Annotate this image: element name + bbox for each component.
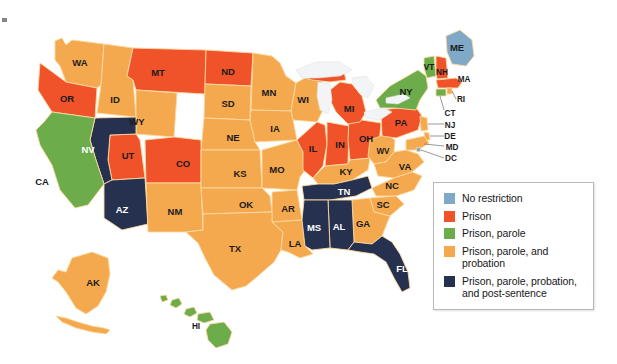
state-OK[interactable] — [201, 188, 272, 214]
legend-swatch-prison-parole-probation — [444, 246, 455, 257]
state-label-CT: CT — [445, 109, 456, 118]
state-UT[interactable] — [108, 134, 145, 180]
legend-item[interactable]: No restriction — [444, 192, 584, 205]
legend-label-no-restriction: No restriction — [462, 192, 522, 205]
state-ND[interactable] — [205, 50, 253, 86]
state-HI-niihau — [160, 295, 168, 302]
state-CT[interactable] — [436, 89, 446, 96]
state-HI-maui — [197, 312, 214, 323]
legend-swatch-no-restriction — [444, 193, 455, 204]
state-NH[interactable] — [436, 56, 448, 79]
state-RI[interactable] — [447, 88, 452, 94]
state-label-DE: DE — [444, 132, 456, 141]
leader-line-ct — [440, 96, 444, 110]
leader-line-md — [424, 144, 444, 146]
state-AK-aleutians — [56, 316, 110, 334]
state-shapes-group — [36, 30, 474, 348]
legend-swatch-prison-parole — [444, 228, 455, 239]
state-MA[interactable] — [436, 78, 462, 88]
state-FL[interactable] — [348, 236, 410, 292]
us-map-figure: WAORIDMTNDSDMNWIWYNVUTCONEIACAAZNMKSMOIL… — [0, 0, 617, 364]
state-label-DC: DC — [445, 154, 457, 163]
state-MT[interactable] — [127, 48, 206, 94]
state-KS[interactable] — [201, 150, 262, 188]
state-NY[interactable] — [376, 70, 428, 110]
state-label-RI: RI — [457, 95, 465, 104]
state-AK[interactable] — [52, 252, 110, 314]
state-HI-oahu — [184, 307, 197, 317]
state-ID[interactable] — [97, 44, 136, 117]
state-DC[interactable] — [416, 147, 421, 152]
legend-swatch-prison — [444, 211, 455, 222]
legend-label-prison-parole: Prison, parole — [462, 227, 525, 240]
state-HI-kauai — [170, 298, 182, 308]
state-IN[interactable] — [325, 122, 349, 166]
state-SD[interactable] — [204, 84, 251, 120]
state-VT[interactable] — [424, 56, 436, 78]
state-AR[interactable] — [272, 190, 302, 222]
legend-item[interactable]: Prison, parole, and probation — [444, 245, 584, 270]
state-MN[interactable] — [251, 53, 296, 111]
state-IA[interactable] — [250, 110, 297, 142]
state-NM[interactable] — [146, 183, 203, 232]
state-AL[interactable] — [328, 200, 354, 250]
legend-item[interactable]: Prison — [444, 210, 584, 223]
state-WY[interactable] — [136, 90, 177, 137]
state-label-NJ: NJ — [445, 121, 455, 130]
leader-line-ri — [452, 91, 456, 99]
map-legend: No restriction Prison Prison, parole Pri… — [433, 182, 594, 310]
state-label-CA: CA — [35, 176, 49, 187]
state-NJ[interactable] — [420, 116, 428, 131]
state-label-MD: MD — [446, 143, 459, 152]
state-AZ[interactable] — [104, 178, 148, 230]
legend-swatch-prison-parole-probation-post — [444, 276, 455, 287]
legend-label-prison: Prison — [462, 210, 491, 223]
callout-label-group: RICTNJDEMDDC — [444, 95, 465, 163]
state-ME[interactable] — [446, 30, 474, 66]
state-HI-hawaii[interactable] — [206, 322, 232, 348]
state-CO[interactable] — [145, 137, 201, 183]
leader-line-dc — [421, 150, 444, 158]
state-label-HI: HI — [192, 322, 200, 331]
legend-label-prison-parole-probation: Prison, parole, and probation — [462, 245, 584, 270]
legend-item[interactable]: Prison, parole, probation, and post-sent… — [444, 275, 584, 300]
legend-item[interactable]: Prison, parole — [444, 227, 584, 240]
legend-label-prison-parole-probation-post: Prison, parole, probation, and post-sent… — [462, 275, 584, 300]
state-MS[interactable] — [302, 200, 330, 250]
